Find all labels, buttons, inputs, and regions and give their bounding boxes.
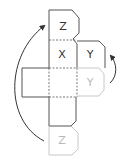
left-fold-arrow (15, 26, 44, 141)
center-face (49, 68, 77, 97)
x-label: X (58, 48, 66, 61)
left-face (22, 68, 49, 97)
bottom-face (49, 97, 76, 126)
cube-net-diagram: Z X Y Y Z (0, 0, 127, 165)
top-z-label: Z (59, 20, 67, 33)
right-fold-arrow (110, 56, 116, 83)
y-dark-label: Y (86, 48, 94, 61)
y-light-label: Y (86, 76, 94, 89)
bottom-z-label: Z (58, 134, 66, 147)
